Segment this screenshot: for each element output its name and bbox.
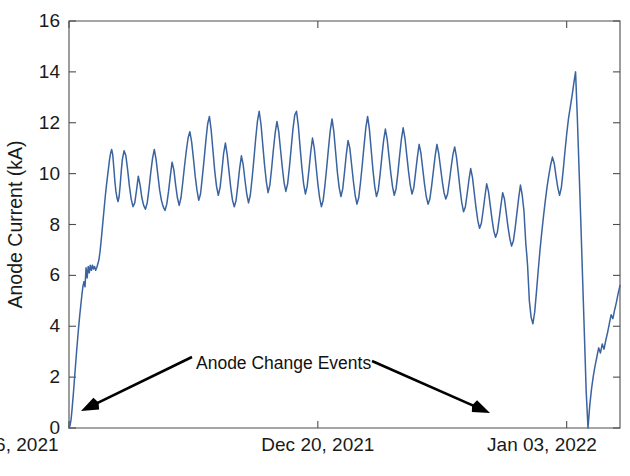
y-tick-label: 12: [39, 112, 60, 133]
x-tick-label: Dec 06, 2021: [0, 434, 59, 455]
y-tick-label: 4: [49, 315, 60, 336]
y-axis-title: Anode Current (kA): [4, 141, 26, 309]
annotation-label-anode-change-events: Anode Change Events: [196, 353, 371, 373]
y-tick-label: 2: [49, 366, 60, 387]
y-tick-label: 14: [39, 61, 61, 82]
chart-figure: 0246810121416 Dec 06, 2021Dec 20, 2021Ja…: [0, 0, 630, 476]
y-tick-label: 8: [49, 214, 60, 235]
y-tick-label: 6: [49, 264, 60, 285]
x-tick-label: Jan 03, 2022: [487, 434, 597, 455]
anode-current-line-chart: 0246810121416 Dec 06, 2021Dec 20, 2021Ja…: [0, 0, 630, 476]
y-tick-label: 10: [39, 163, 60, 184]
y-tick-label: 16: [39, 10, 60, 31]
x-tick-label: Dec 20, 2021: [261, 434, 374, 455]
